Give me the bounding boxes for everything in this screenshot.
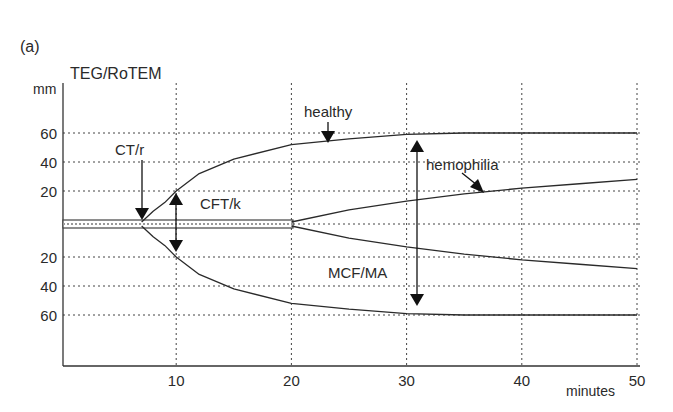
annotation-ct-r: CT/r [115,141,144,158]
baseline-band [63,220,293,228]
x-axis-label: minutes [566,383,615,399]
x-tick-label: 30 [398,372,415,389]
mcf-ma-arrowhead-down [410,294,424,306]
y-tick-label: 40 [40,154,57,171]
annotation-arrows [135,122,484,306]
x-tick-label: 40 [513,372,530,389]
teg-rotem-chart: (a) TEG/RoTEM mm minutes CT/r CFT/k heal… [0,0,673,412]
hemophilia-upper-trace [291,179,637,222]
chart-title: TEG/RoTEM [70,65,162,82]
y-tick-label: 60 [40,125,57,142]
labels: (a) TEG/RoTEM mm minutes CT/r CFT/k heal… [20,38,615,399]
annotation-hemophilia: hemophilia [426,156,499,173]
healthy-lower-trace [142,226,637,315]
hemophilia-lower-trace [291,226,637,269]
mcf-ma-arrowhead-up [410,140,424,152]
y-tick-label: 20 [40,183,57,200]
cft-k-arrowhead-down [169,240,183,252]
y-tick-label: 60 [40,307,57,324]
cft-k-arrowhead-up [169,193,183,205]
x-tick-label: 50 [629,372,646,389]
ct-r-arrowhead [135,208,149,220]
x-tick-label: 20 [283,372,300,389]
panel-label: (a) [20,38,40,55]
annotation-mcf-ma: MCF/MA [328,264,387,281]
y-axis-label: mm [33,81,56,97]
annotation-healthy: healthy [304,103,353,120]
y-tick-label: 40 [40,278,57,295]
x-tick-label: 10 [168,372,185,389]
y-tick-label: 20 [40,249,57,266]
annotation-cft-k: CFT/k [200,195,241,212]
